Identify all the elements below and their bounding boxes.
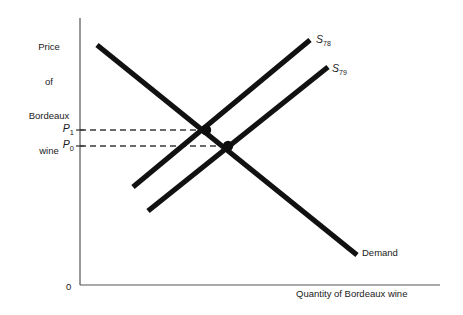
y-axis-title-line-2: of: [18, 76, 80, 88]
price-label-p1-base: P: [63, 122, 70, 134]
equilibrium-marker-p0: [223, 141, 233, 151]
supply-label-s78: S78: [316, 33, 331, 47]
price-label-p0-base: P: [63, 138, 70, 150]
x-axis-title: Quantity of Bordeaux wine: [296, 288, 407, 299]
y-axis-title-line-3: Bordeaux: [18, 110, 80, 122]
supply-curve-s78: [133, 40, 310, 187]
price-label-p1: P1: [52, 122, 74, 137]
origin-label: 0: [66, 281, 71, 292]
supply-label-s79-sub: 79: [339, 69, 347, 76]
supply-curve-s79: [148, 67, 328, 211]
price-label-p0: P0: [52, 138, 74, 153]
equilibrium-marker-p1: [201, 125, 211, 135]
demand-label: Demand: [362, 247, 398, 258]
supply-label-s79-base: S: [332, 62, 339, 74]
price-label-p1-sub: 1: [70, 128, 74, 137]
price-label-p0-sub: 0: [70, 144, 74, 153]
supply-label-s78-sub: 78: [323, 40, 331, 47]
supply-label-s79: S79: [332, 62, 347, 76]
supply-label-s78-base: S: [316, 33, 323, 45]
y-axis-title-line-1: Price: [18, 41, 80, 53]
